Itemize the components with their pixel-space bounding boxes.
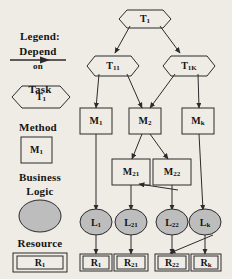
legend-task-sample-sub: 1 — [43, 95, 47, 103]
legend-depend-label-line2: on — [0, 62, 76, 71]
node-label-r21: R21 — [114, 258, 148, 268]
node-label-l22-main: L — [165, 217, 172, 228]
node-label-l21: L21 — [115, 218, 147, 228]
node-label-lk: Lk — [189, 218, 221, 228]
legend-method-label: Method — [0, 122, 76, 133]
edge-m2-m21 — [132, 134, 142, 159]
node-label-t11-main: T — [106, 60, 113, 71]
legend-heading: Legend: — [0, 31, 80, 42]
node-label-t1k-main: T — [181, 60, 188, 71]
edge-t1-t11 — [115, 26, 130, 53]
node-label-l22-sub: 22 — [172, 221, 179, 229]
edge-t11-m2 — [127, 74, 142, 108]
edge-m2-m22 — [150, 134, 168, 159]
edge-mk-lk — [199, 134, 203, 210]
node-label-m21-sub: 21 — [132, 170, 139, 178]
node-label-m1: M1 — [80, 116, 112, 126]
node-label-m22: M22 — [153, 167, 191, 177]
legend-task-sample-main: T — [36, 91, 43, 102]
node-label-m2-sub: 2 — [148, 119, 152, 127]
legend-logic-label-line2: Logic — [0, 186, 80, 197]
legend-task-sample: T1 — [12, 92, 70, 102]
node-label-rk-sub: k — [208, 261, 212, 269]
legend-logic-label-line1: Business — [0, 172, 80, 183]
node-label-l1-main: L — [91, 217, 98, 228]
node-label-l22: L22 — [156, 218, 188, 228]
node-label-t11: T11 — [93, 61, 133, 71]
legend-method-sample-sub: 1 — [39, 148, 43, 156]
node-label-rk-main: R — [200, 257, 207, 268]
node-label-r1-sub: 1 — [98, 261, 102, 269]
node-label-t1k: T1K — [169, 61, 209, 71]
legend-depend-label-line1: Depend — [0, 46, 76, 57]
node-label-l21-main: L — [124, 217, 131, 228]
node-label-t1-sub: 1 — [147, 17, 151, 25]
legend-resource-sample: R1 — [13, 258, 67, 268]
node-label-l1-sub: 1 — [98, 221, 102, 229]
node-label-l21-sub: 21 — [131, 221, 138, 229]
node-label-m21: M21 — [112, 167, 150, 177]
node-label-r22-sub: 22 — [172, 261, 179, 269]
legend-resource-sample-sub: 1 — [42, 261, 46, 269]
edge-t1k-mk — [198, 74, 199, 108]
node-label-t1: T1 — [125, 14, 165, 24]
edge-t11-m1 — [96, 74, 99, 108]
node-label-t1-main: T — [140, 13, 147, 24]
node-label-m2-main: M — [139, 115, 148, 126]
edge-t1k-m2 — [150, 74, 175, 108]
legend-resource-sample-main: R — [35, 257, 42, 268]
node-label-m2: M2 — [129, 116, 161, 126]
node-label-m21-main: M — [123, 166, 132, 177]
edge-lk-r22-cross — [170, 235, 213, 253]
node-label-mk-sub: k — [201, 119, 205, 127]
diagram-canvas: Legend: Depend on Task T1 Method M1 Busi… — [0, 0, 232, 279]
node-label-m22-sub: 22 — [173, 170, 180, 178]
node-label-m1-sub: 1 — [99, 119, 103, 127]
node-label-mk: Mk — [182, 116, 214, 126]
node-label-lk-sub: k — [206, 221, 210, 229]
node-label-t11-sub: 11 — [113, 64, 120, 72]
legend-resource-label: Resource — [0, 238, 80, 249]
node-label-r1-main: R — [91, 257, 98, 268]
node-label-m22-main: M — [164, 166, 173, 177]
node-label-mk-main: M — [191, 115, 200, 126]
node-label-r21-sub: 21 — [131, 261, 138, 269]
legend-method-sample: M1 — [21, 145, 52, 155]
edge-t1-t1k — [160, 26, 180, 53]
node-label-rk: Rk — [191, 258, 221, 268]
node-label-l1: L1 — [80, 218, 112, 228]
node-label-r1: R1 — [80, 258, 112, 268]
node-label-r22: R22 — [155, 258, 189, 268]
node-label-m1-main: M — [90, 115, 99, 126]
node-label-t1k-sub: 1K — [188, 64, 197, 72]
legend-logic-ellipse — [19, 200, 61, 232]
